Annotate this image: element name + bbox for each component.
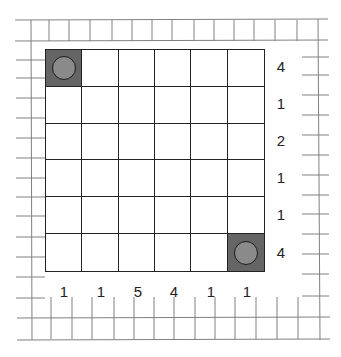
grid-cell[interactable]: [119, 124, 155, 161]
grid-cell[interactable]: [82, 160, 118, 197]
row-clue: 4: [271, 58, 291, 76]
row-clue: 2: [271, 132, 291, 150]
grid-cell[interactable]: [155, 197, 191, 234]
grid-cell[interactable]: [228, 234, 264, 271]
row-clue: 1: [271, 169, 291, 187]
grid-cell[interactable]: [82, 234, 118, 271]
grid-cell[interactable]: [155, 50, 191, 87]
grid-cell[interactable]: [46, 234, 82, 271]
grid-cell[interactable]: [155, 234, 191, 271]
grid-cell[interactable]: [46, 197, 82, 234]
grid-cell[interactable]: [228, 50, 264, 87]
grid-cell[interactable]: [191, 124, 227, 161]
column-clue: 1: [237, 283, 257, 301]
column-clue: 1: [91, 283, 111, 301]
grid-cell[interactable]: [46, 87, 82, 124]
grid-cell[interactable]: [119, 50, 155, 87]
column-clue: 1: [54, 283, 74, 301]
grid-cell[interactable]: [82, 50, 118, 87]
row-clue: 1: [271, 206, 291, 224]
grid-cell[interactable]: [191, 234, 227, 271]
grid-cell[interactable]: [191, 87, 227, 124]
grid-cell[interactable]: [155, 160, 191, 197]
grid-cell[interactable]: [228, 160, 264, 197]
grid-cell[interactable]: [119, 87, 155, 124]
grid-cell[interactable]: [228, 87, 264, 124]
grid-cell[interactable]: [119, 160, 155, 197]
grid-cell[interactable]: [155, 87, 191, 124]
grid-cell[interactable]: [82, 124, 118, 161]
column-clue: 1: [201, 283, 221, 301]
circle-piece-icon: [234, 241, 258, 265]
grid-cell[interactable]: [228, 197, 264, 234]
grid-cell[interactable]: [228, 124, 264, 161]
grid-cell[interactable]: [82, 197, 118, 234]
column-clue: 5: [128, 283, 148, 301]
row-clue: 4: [271, 244, 291, 262]
grid-cell[interactable]: [191, 160, 227, 197]
grid-cell[interactable]: [155, 124, 191, 161]
grid-cell[interactable]: [191, 50, 227, 87]
puzzle-board: [45, 49, 265, 272]
grid-cell[interactable]: [82, 87, 118, 124]
grid-cell[interactable]: [191, 197, 227, 234]
grid-cell[interactable]: [46, 160, 82, 197]
grid-cell[interactable]: [46, 50, 82, 87]
grid-cell[interactable]: [119, 197, 155, 234]
column-clue: 4: [164, 283, 184, 301]
circle-piece-icon: [52, 56, 76, 80]
row-clue: 1: [271, 95, 291, 113]
grid-cell[interactable]: [119, 234, 155, 271]
grid-cell[interactable]: [46, 124, 82, 161]
